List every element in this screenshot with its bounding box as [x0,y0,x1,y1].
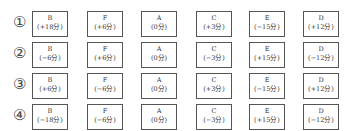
cell-box: A(0分) [141,104,177,130]
cell-letter: A [142,76,176,85]
cell-letter: A [142,45,176,54]
cell-letter: E [250,45,284,54]
cell-letter: F [88,76,122,85]
option-row-2: ② B(−6分) F(+6分) A(0分) C(−3分) E(+15分) D(−… [0,42,348,66]
cell-value: (+12分) [304,23,338,32]
cell-value: (+3分) [197,23,231,32]
cell-box: C(+3分) [196,11,232,37]
cell-value: (+15分) [250,116,284,125]
cell-box: B(+6分) [32,73,68,99]
cell-letter: B [33,76,67,85]
cell-value: (+3分) [197,85,231,94]
cell-value: (0分) [142,85,176,94]
cell-value: (+18分) [33,23,67,32]
cell-letter: D [304,107,338,116]
cell-letter: F [88,107,122,116]
cell-box: D(−12分) [303,104,339,130]
cell-box: F(+6分) [87,42,123,68]
cell-box: A(0分) [141,42,177,68]
cell-value: (+6分) [88,54,122,63]
cell-box: C(−3分) [196,42,232,68]
cell-value: (−18分) [33,116,67,125]
cell-letter: C [197,76,231,85]
cell-box: E(−15分) [249,73,285,99]
cell-box: D(−12分) [303,42,339,68]
cell-value: (+6分) [33,85,67,94]
cell-box: B(+18分) [32,11,68,37]
option-number: ③ [10,75,28,93]
cell-letter: E [250,107,284,116]
cell-letter: D [304,14,338,23]
cell-letter: F [88,45,122,54]
cell-box: E(+15分) [249,104,285,130]
cell-box: F(−6分) [87,73,123,99]
cell-box: A(0分) [141,11,177,37]
cell-box: B(−6分) [32,42,68,68]
cell-box: F(+6分) [87,11,123,37]
option-number: ② [10,44,28,62]
cell-value: (0分) [142,116,176,125]
cell-box: E(−15分) [249,11,285,37]
cell-box: B(−18分) [32,104,68,130]
cell-value: (−15分) [250,85,284,94]
option-row-4: ④ B(−18分) F(−6分) A(0分) C(−3分) E(+15分) D(… [0,104,348,128]
cell-letter: A [142,107,176,116]
option-number: ④ [10,106,28,124]
cell-box: D(+12分) [303,73,339,99]
cell-value: (−3分) [197,116,231,125]
cell-letter: B [33,107,67,116]
cell-value: (0分) [142,54,176,63]
cell-value: (−6分) [33,54,67,63]
cell-box: F(−6分) [87,104,123,130]
cell-letter: E [250,76,284,85]
option-row-1: ① B(+18分) F(+6分) A(0分) C(+3分) E(−15分) D(… [0,11,348,35]
cell-letter: F [88,14,122,23]
cell-letter: C [197,14,231,23]
cell-letter: A [142,14,176,23]
cell-letter: C [197,107,231,116]
cell-letter: C [197,45,231,54]
cell-value: (−12分) [304,54,338,63]
cell-value: (−12分) [304,116,338,125]
cell-value: (−6分) [88,116,122,125]
cell-box: C(+3分) [196,73,232,99]
cell-value: (−3分) [197,54,231,63]
option-row-3: ③ B(+6分) F(−6分) A(0分) C(+3分) E(−15分) D(+… [0,73,348,97]
cell-value: (+15分) [250,54,284,63]
option-number: ① [10,13,28,31]
cell-value: (−15分) [250,23,284,32]
cell-letter: D [304,76,338,85]
cell-value: (+6分) [88,23,122,32]
cell-letter: D [304,45,338,54]
cell-value: (+12分) [304,85,338,94]
cell-letter: B [33,14,67,23]
cell-letter: B [33,45,67,54]
cell-box: E(+15分) [249,42,285,68]
cell-value: (−6分) [88,85,122,94]
cell-box: A(0分) [141,73,177,99]
cell-box: C(−3分) [196,104,232,130]
cell-value: (0分) [142,23,176,32]
cell-box: D(+12分) [303,11,339,37]
cell-letter: E [250,14,284,23]
